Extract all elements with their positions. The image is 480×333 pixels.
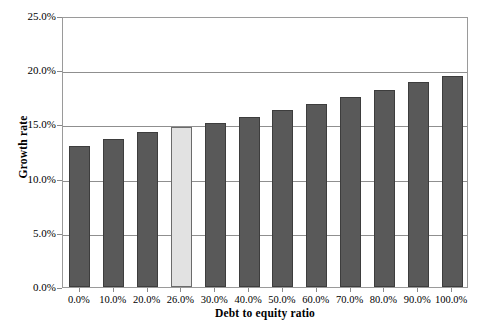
x-tick-mark bbox=[113, 288, 114, 292]
bar bbox=[340, 97, 361, 287]
y-tick-label: 25.0% bbox=[0, 11, 56, 22]
x-tick-mark bbox=[451, 288, 452, 292]
x-tick-mark bbox=[180, 288, 181, 292]
x-tick-mark bbox=[316, 288, 317, 292]
plot-area bbox=[62, 17, 468, 288]
x-tick-mark bbox=[282, 288, 283, 292]
bar bbox=[239, 117, 260, 287]
x-tick-mark bbox=[147, 288, 148, 292]
x-tick-mark bbox=[248, 288, 249, 292]
y-tick-label: 15.0% bbox=[0, 119, 56, 130]
x-tick-mark bbox=[79, 288, 80, 292]
bar bbox=[442, 76, 463, 287]
bars-layer bbox=[63, 18, 467, 287]
x-tick-label: 100.0% bbox=[428, 294, 474, 306]
x-tick-mark bbox=[350, 288, 351, 292]
bar bbox=[306, 104, 327, 287]
bar bbox=[171, 127, 192, 287]
y-tick-label: 20.0% bbox=[0, 65, 56, 76]
y-tick-label: 5.0% bbox=[0, 228, 56, 239]
x-axis-title: Debt to equity ratio bbox=[62, 307, 468, 319]
x-tick-mark bbox=[383, 288, 384, 292]
x-tick-mark bbox=[214, 288, 215, 292]
y-axis-ticks: 0.0%5.0%10.0%15.0%20.0%25.0% bbox=[0, 0, 60, 333]
x-tick-mark bbox=[417, 288, 418, 292]
bar bbox=[137, 132, 158, 287]
bar bbox=[272, 110, 293, 287]
bar bbox=[69, 146, 90, 287]
bar-chart: Growth rate 0.0%5.0%10.0%15.0%20.0%25.0%… bbox=[0, 0, 480, 333]
bar bbox=[205, 123, 226, 287]
bar bbox=[374, 90, 395, 287]
y-tick-label: 10.0% bbox=[0, 174, 56, 185]
y-tick-label: 0.0% bbox=[0, 282, 56, 293]
bar bbox=[408, 82, 429, 287]
bar bbox=[103, 139, 124, 288]
